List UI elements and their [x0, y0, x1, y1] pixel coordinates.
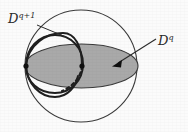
right-node-dot — [79, 63, 84, 68]
label-outer-disk-exponent: q+1 — [18, 11, 35, 20]
left-node-dot — [23, 63, 28, 68]
label-inner-disk-base: D — [158, 33, 168, 48]
label-inner-disk: Dq — [158, 33, 174, 48]
label-outer-disk: Dq+1 — [8, 11, 35, 26]
label-inner-disk-exponent: q — [168, 33, 173, 42]
figure-container: Dq+1 Dq — [0, 0, 188, 132]
label-outer-disk-base: D — [8, 11, 18, 26]
